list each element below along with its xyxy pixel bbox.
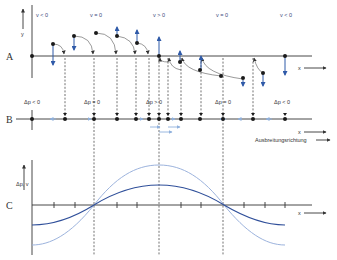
b-drop-markers [63, 113, 287, 116]
velocity-label: v < 0 [36, 12, 48, 18]
row-a: A y x [6, 5, 326, 255]
row-c-label: C [6, 200, 13, 211]
dashed-guides-a [65, 58, 253, 255]
sound-wave-diagram: v < 0 v = 0 v > 0 v = 0 v < 0 A y x [0, 0, 337, 260]
pressure-label: Δp = 0 [84, 99, 100, 105]
pressure-labels: Δp < 0 Δp = 0 Δp > 0 Δp = 0 Δp < 0 [24, 99, 290, 105]
velocity-labels: v < 0 v = 0 v > 0 v = 0 v < 0 [36, 12, 292, 18]
c-x-axis-label: x [298, 210, 301, 216]
row-c: C Δp, v x [6, 160, 326, 255]
velocity-arrows [53, 27, 285, 86]
velocity-label: v > 0 [153, 12, 165, 18]
flow-arrows [50, 119, 272, 132]
pressure-label: Δp < 0 [24, 99, 40, 105]
row-a-label: A [6, 51, 14, 62]
velocity-label: v < 0 [280, 12, 292, 18]
row-b-label: B [6, 114, 13, 125]
pressure-label: Δp < 0 [274, 99, 290, 105]
pressure-label: Δp > 0 [146, 99, 162, 105]
x-axis-label: x [298, 65, 301, 71]
propagation-direction-label: Ausbreitungsrichtung [255, 137, 307, 143]
c-y-axis-label: Δp, v [16, 181, 29, 187]
b-x-axis-label: x [298, 129, 301, 135]
velocity-label: v = 0 [90, 12, 102, 18]
y-axis-label: y [21, 31, 24, 37]
row-b: B x Ausbreitungsrichtung [6, 110, 330, 143]
velocity-label: v = 0 [216, 12, 228, 18]
pressure-label: Δp = 0 [215, 99, 231, 105]
